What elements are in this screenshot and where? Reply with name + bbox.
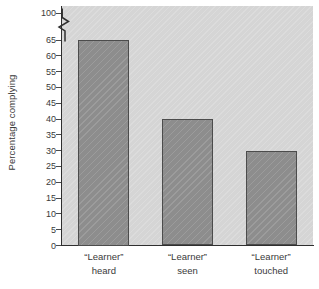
x-axis-category-label-line: “Learner” <box>84 250 123 264</box>
x-axis-category-label-line: “Learner” <box>252 250 291 264</box>
bar <box>78 40 129 246</box>
bar <box>246 151 297 246</box>
y-axis-tick-label: 25 <box>46 162 56 171</box>
x-axis-category-labels: “Learner”heard“Learner”seen“Learner”touc… <box>62 250 313 289</box>
x-axis-category-label-line: “Learner” <box>168 250 207 264</box>
y-axis-tick-label: 15 <box>46 194 56 203</box>
x-axis-category-label: “Learner”touched <box>252 250 291 277</box>
y-axis-title: Percentage complying <box>0 0 22 245</box>
y-axis-tick-label: 30 <box>46 146 56 155</box>
y-axis-title-text: Percentage complying <box>6 75 17 171</box>
y-axis-tick-label: 65 <box>46 36 56 45</box>
x-axis-category-label-line: seen <box>168 264 207 278</box>
y-axis-tick-label: 45 <box>46 99 56 108</box>
x-axis-category-label: “Learner”seen <box>168 250 207 277</box>
y-axis-tick-label: 10 <box>46 209 56 218</box>
y-axis-tick-label: 35 <box>46 130 56 139</box>
bar-chart-figure: Percentage complying 0510152025303540455… <box>0 0 319 289</box>
y-axis-tick-label: 20 <box>46 178 56 187</box>
bar <box>162 119 213 245</box>
x-axis-category-label-line: heard <box>84 264 123 278</box>
y-axis-tick-label: 60 <box>46 51 56 60</box>
x-axis-category-label: “Learner”heard <box>84 250 123 277</box>
y-axis-tick-label: 50 <box>46 83 56 92</box>
x-axis-category-label-line: touched <box>252 264 291 278</box>
y-axis-tick-label: 55 <box>46 67 56 76</box>
y-axis-tick-label: 100 <box>41 9 56 18</box>
y-axis-line <box>61 6 62 246</box>
y-axis-tick-label: 40 <box>46 115 56 124</box>
y-axis-tick-labels: 05101520253035404550556065100 <box>22 0 56 250</box>
